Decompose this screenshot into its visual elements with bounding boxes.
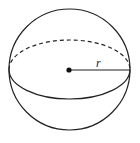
radius-label: r	[96, 56, 101, 70]
center-point	[66, 67, 71, 72]
equator-back-dashed	[9, 40, 130, 70]
sphere-diagram: r	[0, 0, 140, 143]
equator-front	[9, 70, 130, 100]
